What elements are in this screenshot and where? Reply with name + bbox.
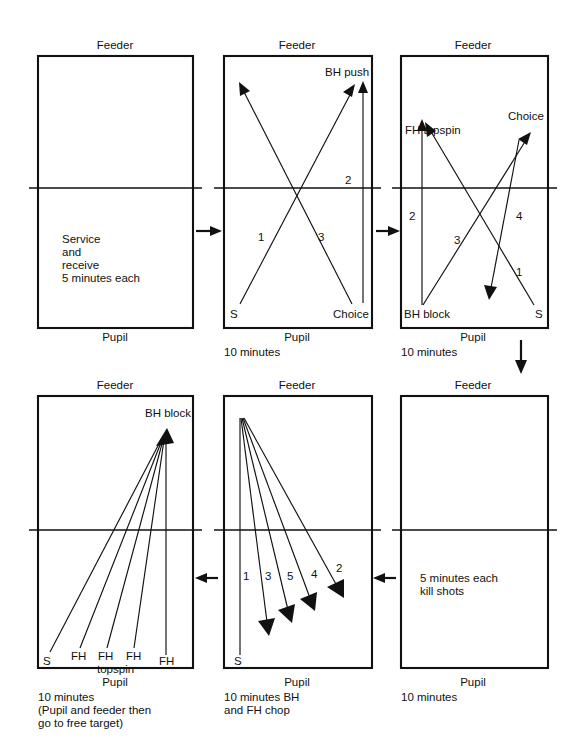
panel-5-shot-3-number: 3 bbox=[265, 570, 271, 582]
panel-3-shot-2-number: 2 bbox=[409, 210, 415, 222]
panel-4-feeder-label: Feeder bbox=[97, 379, 134, 391]
panel-6-inside-line-1: 5 minutes each bbox=[420, 572, 498, 584]
panel-5-pupil-label: Pupil bbox=[284, 676, 310, 688]
panel-4-target-label: BH block bbox=[145, 407, 191, 419]
panel-2-pupil-label: Pupil bbox=[284, 331, 310, 343]
panel-4-caption-line-3: go to free target) bbox=[38, 717, 123, 729]
panel-1-feeder-label: Feeder bbox=[97, 39, 134, 51]
flow-arrow-left-1 bbox=[195, 573, 218, 583]
panel-5-shot-5-number: 5 bbox=[287, 570, 293, 582]
panel-6: Feeder 5 minutes each kill shots Pupil 1… bbox=[392, 379, 557, 703]
panel-3-label-choice: Choice bbox=[508, 110, 544, 122]
panel-1-inside-line-4: 5 minutes each bbox=[62, 272, 140, 284]
panel-1-table bbox=[38, 56, 193, 328]
panel-1: Feeder Service and receive 5 minutes eac… bbox=[29, 39, 202, 343]
panel-5-label-s: S bbox=[234, 655, 242, 667]
panel-3-shot-1-number: 1 bbox=[516, 266, 522, 278]
panel-6-caption-line-1: 10 minutes bbox=[401, 691, 458, 703]
panel-3-caption: 10 minutes bbox=[401, 346, 458, 358]
panel-2-label-bh-push: BH push bbox=[325, 66, 369, 78]
panel-3-feeder-label: Feeder bbox=[455, 39, 492, 51]
panel-5-shot-1-number: 1 bbox=[243, 570, 249, 582]
panel-5-caption-line-1: 10 minutes BH bbox=[224, 691, 299, 703]
panel-2-shot-1-number: 1 bbox=[258, 231, 264, 243]
panel-6-pupil-label: Pupil bbox=[460, 676, 486, 688]
panel-1-inside-line-2: and bbox=[62, 246, 81, 258]
panel-5-feeder-label: Feeder bbox=[279, 379, 316, 391]
panel-4-origin-label-4: FH bbox=[126, 650, 141, 662]
panel-2-shot-2-number: 2 bbox=[345, 174, 351, 186]
flow-arrow-down bbox=[515, 340, 527, 374]
panel-6-table bbox=[401, 396, 548, 668]
panel-4-caption-line-1: 10 minutes bbox=[38, 691, 95, 703]
panel-4-caption-line-2: (Pupil and feeder then bbox=[38, 704, 151, 716]
panel-3-label-bh-block: BH block bbox=[404, 308, 450, 320]
panel-2-feeder-label: Feeder bbox=[279, 39, 316, 51]
panel-5: Feeder 1 3 5 4 bbox=[214, 379, 381, 716]
panel-3-shot-4-number: 4 bbox=[516, 210, 523, 222]
panel-4-origin-label-1: S bbox=[43, 655, 51, 667]
panel-5-shot-2-number: 2 bbox=[336, 562, 342, 574]
panel-4: Feeder BH block S FH FH bbox=[29, 379, 202, 729]
panel-1-inside-line-3: receive bbox=[62, 259, 99, 271]
panel-1-pupil-label: Pupil bbox=[102, 331, 128, 343]
panel-2-caption: 10 minutes bbox=[224, 346, 281, 358]
panel-6-inside-line-2: kill shots bbox=[420, 585, 464, 597]
panel-2-label-choice: Choice bbox=[333, 308, 369, 320]
panel-4-origin-label-5: FH bbox=[159, 655, 174, 667]
panel-2-shot-3-number: 3 bbox=[318, 231, 324, 243]
panel-4-origin-label-3: FH bbox=[98, 650, 113, 662]
panel-4-origin-label-2: FH bbox=[71, 650, 86, 662]
diagram-page: Feeder Service and receive 5 minutes eac… bbox=[0, 0, 569, 756]
panel-4-pupil-label: Pupil bbox=[102, 676, 128, 688]
panel-1-inside-line-1: Service bbox=[62, 233, 100, 245]
flow-arrow-left-2 bbox=[373, 573, 396, 583]
panel-3: Feeder 1 2 3 bbox=[392, 39, 557, 358]
panel-5-caption-line-2: and FH chop bbox=[224, 704, 290, 716]
panel-3-pupil-label: Pupil bbox=[460, 331, 486, 343]
panel-3-label-s: S bbox=[535, 308, 543, 320]
panel-2: Feeder 1 2 3 S BH push Choice bbox=[214, 39, 381, 358]
flow-arrow-right-2 bbox=[376, 226, 400, 236]
panel-3-shot-3-number: 3 bbox=[454, 234, 460, 246]
coaching-progression-diagram: Feeder Service and receive 5 minutes eac… bbox=[0, 0, 569, 756]
panel-2-label-s: S bbox=[230, 308, 238, 320]
panel-6-feeder-label: Feeder bbox=[455, 379, 492, 391]
panel-3-label-fh-topspin: FH topspin bbox=[405, 124, 461, 136]
flow-arrow-right-1 bbox=[196, 226, 222, 236]
panel-3-table bbox=[401, 56, 548, 328]
panel-4-origin-sub-label: topspin bbox=[97, 663, 134, 675]
panel-5-shot-4-number: 4 bbox=[311, 568, 318, 580]
